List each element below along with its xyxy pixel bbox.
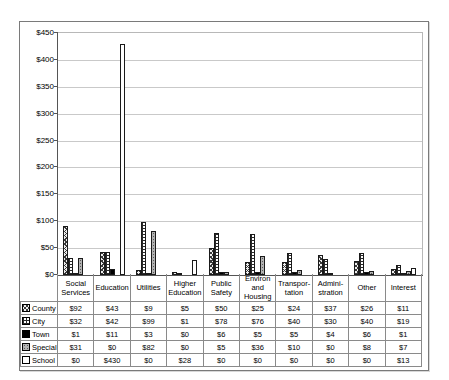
series-name: City bbox=[32, 317, 45, 326]
series-row-label: Special bbox=[21, 341, 58, 354]
y-axis-tick-label: $200 bbox=[22, 163, 54, 171]
value-cell: $0 bbox=[130, 354, 166, 367]
bar-school bbox=[192, 260, 197, 275]
gridline bbox=[58, 194, 422, 195]
table-row-school: School$0$430$0$28$0$0$0$0$0$13 bbox=[21, 354, 422, 367]
value-cell: $42 bbox=[94, 315, 130, 328]
value-cell: $10 bbox=[276, 341, 312, 354]
data-table: SocialServicesEducationUtilitiesHigherEd… bbox=[20, 274, 422, 367]
value-cell: $30 bbox=[312, 315, 348, 328]
value-cell: $1 bbox=[167, 315, 203, 328]
bar-special bbox=[78, 258, 83, 275]
value-cell: $1 bbox=[385, 328, 421, 341]
value-cell: $1 bbox=[58, 328, 94, 341]
legend-swatch-special-icon bbox=[22, 343, 30, 351]
value-cell: $99 bbox=[130, 315, 166, 328]
value-cell: $31 bbox=[58, 341, 94, 354]
value-cell: $0 bbox=[167, 328, 203, 341]
y-axis-tick-mark bbox=[54, 59, 58, 60]
legend-swatch-school-icon bbox=[22, 356, 30, 364]
value-cell: $0 bbox=[94, 341, 130, 354]
category-label: Other bbox=[349, 274, 385, 302]
y-axis-tick-label: $350 bbox=[22, 83, 54, 91]
series-row-label: Town bbox=[21, 328, 58, 341]
y-axis-tick-mark bbox=[54, 247, 58, 248]
y-axis-tick-label: $450 bbox=[22, 29, 54, 37]
legend-swatch-city-icon bbox=[22, 317, 30, 325]
series-row-label: County bbox=[21, 302, 58, 315]
value-cell: $0 bbox=[239, 354, 275, 367]
value-cell: $82 bbox=[130, 341, 166, 354]
category-label: SocialServices bbox=[58, 274, 94, 302]
category-label: EnvironandHousing bbox=[239, 274, 275, 302]
value-cell: $50 bbox=[203, 302, 239, 315]
value-cell: $40 bbox=[276, 315, 312, 328]
y-axis-tick-label: $250 bbox=[22, 137, 54, 145]
gridline bbox=[58, 141, 422, 142]
category-label: Education bbox=[94, 274, 130, 302]
bar-city bbox=[250, 234, 255, 275]
series-row-label: City bbox=[21, 315, 58, 328]
value-cell: $11 bbox=[94, 328, 130, 341]
value-cell: $28 bbox=[167, 354, 203, 367]
value-cell: $4 bbox=[312, 328, 348, 341]
value-cell: $3 bbox=[130, 328, 166, 341]
y-axis-tick-label: $50 bbox=[22, 244, 54, 252]
value-cell: $92 bbox=[58, 302, 94, 315]
y-axis-tick-label: $100 bbox=[22, 217, 54, 225]
series-row-label: School bbox=[21, 354, 58, 367]
category-label: HigherEducation bbox=[167, 274, 203, 302]
gridline bbox=[58, 60, 422, 61]
spreadsheet-chart-object: { "chart_data": { "type": "bar", "title"… bbox=[0, 0, 449, 380]
category-header-row: SocialServicesEducationUtilitiesHigherEd… bbox=[21, 274, 422, 302]
value-cell: $5 bbox=[167, 302, 203, 315]
bar-special bbox=[260, 256, 265, 275]
table-row-town: Town$1$11$3$0$6$5$5$4$6$1 bbox=[21, 328, 422, 341]
y-axis-line bbox=[57, 33, 58, 275]
table-row-special: Special$31$0$82$0$5$36$10$0$8$7 bbox=[21, 341, 422, 354]
value-cell: $6 bbox=[349, 328, 385, 341]
y-axis-tick-mark bbox=[54, 140, 58, 141]
category-label: Transpor-tation bbox=[276, 274, 312, 302]
value-cell: $36 bbox=[239, 341, 275, 354]
value-cell: $9 bbox=[130, 302, 166, 315]
chart-frame: $0$50$100$150$200$250$300$350$400$450 So… bbox=[19, 21, 429, 371]
value-cell: $5 bbox=[239, 328, 275, 341]
value-cell: $5 bbox=[203, 341, 239, 354]
bar-school bbox=[120, 44, 125, 275]
legend-swatch-town-icon bbox=[22, 330, 30, 338]
y-axis-tick-mark bbox=[54, 166, 58, 167]
bar-city bbox=[214, 233, 219, 275]
value-cell: $8 bbox=[349, 341, 385, 354]
y-axis-tick-mark bbox=[54, 220, 58, 221]
value-cell: $0 bbox=[312, 341, 348, 354]
series-name: Special bbox=[32, 343, 57, 352]
value-cell: $6 bbox=[203, 328, 239, 341]
value-cell: $43 bbox=[94, 302, 130, 315]
y-axis-tick-mark bbox=[54, 193, 58, 194]
table-row-city: City$32$42$99$1$78$76$40$30$40$19 bbox=[21, 315, 422, 328]
y-axis-tick-mark bbox=[54, 113, 58, 114]
category-label: Admini-stration bbox=[312, 274, 348, 302]
value-cell: $78 bbox=[203, 315, 239, 328]
value-cell: $19 bbox=[385, 315, 421, 328]
value-cell: $25 bbox=[239, 302, 275, 315]
value-cell: $32 bbox=[58, 315, 94, 328]
value-cell: $40 bbox=[349, 315, 385, 328]
y-axis-tick-mark bbox=[54, 32, 58, 33]
value-cell: $26 bbox=[349, 302, 385, 315]
series-name: School bbox=[32, 356, 55, 365]
y-axis-tick-label: $300 bbox=[22, 110, 54, 118]
value-cell: $7 bbox=[385, 341, 421, 354]
y-axis-tick-label: $400 bbox=[22, 56, 54, 64]
value-cell: $0 bbox=[276, 354, 312, 367]
value-cell: $24 bbox=[276, 302, 312, 315]
y-axis-tick-label: $150 bbox=[22, 190, 54, 198]
bar-special bbox=[151, 231, 156, 275]
series-name: Town bbox=[32, 330, 50, 339]
value-cell: $5 bbox=[276, 328, 312, 341]
value-cell: $13 bbox=[385, 354, 421, 367]
gridline bbox=[58, 114, 422, 115]
series-name: County bbox=[32, 304, 56, 313]
category-label: PublicSafety bbox=[203, 274, 239, 302]
